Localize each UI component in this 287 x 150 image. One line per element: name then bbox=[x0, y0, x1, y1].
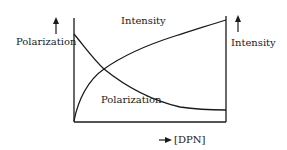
intensity-up-arrow-icon bbox=[235, 15, 241, 32]
polarization-up-arrow-icon bbox=[53, 17, 59, 34]
polarization-curve-label: Polarization bbox=[101, 94, 161, 105]
intensity-curve-label: Intensity bbox=[121, 15, 166, 26]
left-axis-label: Polarization bbox=[16, 36, 76, 47]
intensity-curve bbox=[74, 20, 226, 121]
right-axis-label: Intensity bbox=[231, 37, 276, 48]
dpn-right-arrow-icon bbox=[159, 137, 172, 143]
x-axis-label: [DPN] bbox=[174, 134, 205, 145]
